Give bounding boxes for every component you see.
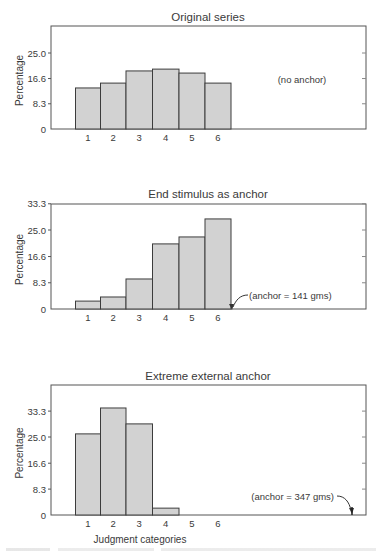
anchor-arrow [233,295,248,307]
bar-category-3 [126,424,153,515]
bar-category-3 [126,71,153,129]
bar-category-5 [179,73,205,129]
x-axis-label: Judgment categories [94,534,187,545]
figure: Original seriesPercentage08.316.625.0123… [0,0,383,553]
y-axis-label: Percentage [14,233,25,285]
x-tick-label: 5 [189,518,194,529]
x-tick-label: 6 [215,132,220,143]
x-tick-label: 2 [111,132,116,143]
y-tick-label: 8.3 [33,277,46,288]
anchor-arrow [337,496,351,510]
y-tick-label: 25.0 [28,48,47,59]
y-tick-label: 33.3 [28,198,47,209]
bar-category-3 [126,279,153,309]
x-tick-label: 3 [137,132,142,143]
y-tick-label: 8.3 [33,484,46,495]
bar-category-4 [153,244,180,309]
truncated-caption [6,548,376,551]
chart-title: Original series [171,11,245,23]
bar-category-5 [179,237,205,309]
y-tick-label: 16.6 [28,458,47,469]
bar-category-1 [76,434,101,515]
x-tick-label: 3 [137,312,142,323]
y-tick-label: 0 [41,304,46,315]
bar-category-6 [205,83,231,129]
x-tick-label: 1 [85,132,90,143]
anchor-annotation: (no anchor) [278,74,327,85]
anchor-annotation: (anchor = 141 gms) [249,290,332,301]
bar-category-1 [76,88,101,129]
x-tick-label: 2 [111,518,116,529]
x-tick-label: 5 [189,132,194,143]
y-tick-label: 16.6 [28,73,47,84]
x-tick-label: 4 [163,518,168,529]
bar-category-2 [101,83,127,129]
x-tick-label: 1 [85,518,90,529]
chart-title: Extreme external anchor [145,370,270,382]
y-tick-label: 0 [41,510,46,521]
y-tick-label: 25.0 [28,432,47,443]
y-tick-label: 16.6 [28,251,47,262]
y-axis-label: Percentage [14,427,25,479]
y-axis-label: Percentage [14,54,25,106]
chart-canvas: Original seriesPercentage08.316.625.0123… [0,0,383,553]
bar-category-2 [101,408,127,515]
x-tick-label: 6 [215,518,220,529]
y-tick-label: 8.3 [33,98,46,109]
bar-category-4 [153,508,180,515]
y-tick-label: 0 [41,124,46,135]
y-tick-label: 25.0 [28,225,47,236]
x-tick-label: 6 [215,312,220,323]
x-tick-label: 3 [137,518,142,529]
x-tick-label: 4 [163,312,168,323]
anchor-annotation: (anchor = 347 gms) [251,491,334,502]
chart-title: End stimulus as anchor [148,188,268,200]
bar-category-2 [101,297,127,309]
bar-category-1 [76,301,101,309]
bar-category-4 [153,69,180,129]
x-tick-label: 1 [85,312,90,323]
bar-category-6 [205,219,231,309]
x-tick-label: 5 [189,312,194,323]
x-tick-label: 2 [111,312,116,323]
y-tick-label: 33.3 [28,406,47,417]
x-tick-label: 4 [163,132,168,143]
